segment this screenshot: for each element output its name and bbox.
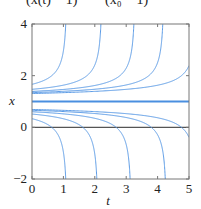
upper-solution-curve (32, 66, 189, 94)
x-tick-label: 0 (29, 181, 36, 196)
upper-solution-curve (32, 0, 103, 89)
y-tick-label: 2 (21, 68, 28, 83)
x-axis-label: t (106, 193, 110, 208)
solution-curves-chart: 012345−2024 t x (0, 0, 201, 209)
y-axis-label: x (8, 93, 15, 108)
lower-solution-curve (32, 110, 167, 209)
upper-solution-curve (32, 0, 165, 93)
y-tick-label: 4 (21, 16, 28, 31)
x-tick-label: 2 (92, 181, 99, 196)
solution-curves (32, 0, 189, 209)
x-tick-label: 1 (60, 181, 67, 196)
x-tick-label: 3 (123, 181, 130, 196)
x-tick-label: 5 (186, 181, 193, 196)
axis-ticks: 012345−2024 (13, 16, 192, 196)
x-tick-label: 4 (154, 181, 161, 196)
y-tick-label: −2 (13, 171, 27, 186)
upper-solution-curve (32, 0, 67, 84)
y-tick-label: 0 (21, 119, 28, 134)
